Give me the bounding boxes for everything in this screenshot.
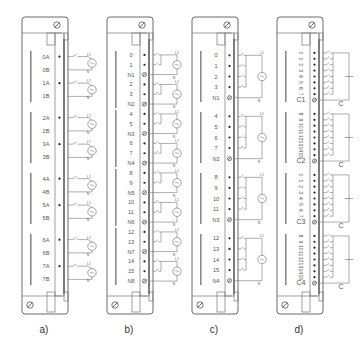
wire xyxy=(246,238,262,255)
switch-icon xyxy=(238,146,246,148)
terminal-screw xyxy=(58,82,60,84)
switch-icon xyxy=(323,196,333,198)
screw-icon xyxy=(143,220,147,224)
common-terminal-label: C4 xyxy=(297,279,306,286)
switch-icon xyxy=(238,236,246,238)
screw-icon xyxy=(143,102,147,106)
terminal-label: 0 xyxy=(298,52,304,55)
switch-blade xyxy=(327,251,330,253)
terminal-screw xyxy=(313,81,315,83)
switch-blade xyxy=(156,122,158,124)
line-label: L1 xyxy=(175,169,179,173)
terminal-label: 8 xyxy=(214,174,217,180)
top-latch xyxy=(217,33,225,45)
switch-blade xyxy=(156,112,158,114)
terminal-screw xyxy=(143,201,145,203)
group-indicator-bar xyxy=(200,234,202,285)
neutral-label: N xyxy=(87,96,90,100)
switch-icon xyxy=(238,125,246,127)
switch-icon xyxy=(153,92,161,94)
terminal-label: 7 xyxy=(129,150,132,156)
terminal-label: 3A xyxy=(43,141,50,147)
terminal-label: 12 xyxy=(213,235,219,241)
neutral-label: N xyxy=(173,253,176,257)
switch-blade xyxy=(241,186,243,188)
line-label: L1 xyxy=(87,262,91,266)
terminal-label: 15 xyxy=(213,267,219,273)
terminal-label: 8 xyxy=(129,170,132,176)
switch-icon xyxy=(323,179,333,181)
wire xyxy=(161,202,177,208)
module-panel-a: 0A0B1A1BL1NL1N2A2B3A3BL1NL1N4A4B5A5BL1NL… xyxy=(22,17,96,335)
switch-blade xyxy=(241,135,243,137)
terminal-label: 9 xyxy=(298,118,304,121)
terminal-label: 0A xyxy=(43,54,50,60)
common-terminal-label: N8 xyxy=(127,278,134,284)
line-label: L1 xyxy=(87,201,91,205)
screw-icon xyxy=(27,302,33,308)
terminal-screw xyxy=(143,54,145,56)
switch-icon xyxy=(323,202,333,204)
ac-source-icon xyxy=(173,267,181,275)
terminal-screw xyxy=(228,115,230,117)
switch-icon xyxy=(323,173,333,175)
wire xyxy=(82,205,92,208)
common-terminal-label: N6 xyxy=(127,219,134,225)
ac-source-icon xyxy=(88,120,96,128)
switch-blade xyxy=(241,175,243,177)
terminal-screw xyxy=(143,211,145,213)
terminal-screw xyxy=(143,231,145,233)
terminal-strip xyxy=(55,33,64,296)
terminal-label: 6 xyxy=(129,140,132,146)
wire xyxy=(82,144,92,147)
wire xyxy=(82,83,92,86)
terminal-label: 0 xyxy=(129,52,132,58)
switch-icon xyxy=(68,81,82,83)
neutral-label: N xyxy=(87,70,90,74)
terminal-label: 5 xyxy=(298,203,304,206)
switch-blade xyxy=(73,54,77,56)
screw-icon xyxy=(143,161,147,165)
ac-source-icon xyxy=(173,61,181,69)
switch-icon xyxy=(238,247,246,249)
switch-blade xyxy=(327,240,330,242)
switch-icon xyxy=(323,190,333,192)
switch-blade xyxy=(73,237,77,239)
group-indicator-bar xyxy=(115,169,117,226)
terminal-group: 45N3L1N xyxy=(115,110,181,167)
terminal-group: 0A0B1A1BL1NL1N xyxy=(30,51,96,102)
ac-source-icon xyxy=(88,269,96,277)
terminal-label: 1 xyxy=(298,179,304,182)
common-terminal-label: N1 xyxy=(127,72,134,78)
terminal-screw xyxy=(313,215,315,217)
switch-icon xyxy=(323,185,333,187)
switch-blade xyxy=(327,80,330,82)
switch-blade xyxy=(73,176,77,178)
terminal-screw xyxy=(143,152,145,154)
panel-caption: c) xyxy=(210,324,218,335)
switch-icon xyxy=(238,114,246,116)
line-label: L1 xyxy=(175,110,179,114)
terminal-screw xyxy=(143,83,145,85)
terminal-label: 10 xyxy=(213,196,219,202)
terminal-label: 5 xyxy=(214,124,217,130)
switch-blade xyxy=(327,63,330,65)
terminal-label: 4A xyxy=(43,176,50,182)
terminal-label: 9 xyxy=(129,180,132,186)
panel-caption: b) xyxy=(125,324,134,335)
common-terminal-label: N4 xyxy=(212,278,219,284)
switch-icon xyxy=(323,118,333,120)
terminal-group: 4A4B5A5BL1NL1N xyxy=(30,173,96,224)
terminal-label: 6B xyxy=(43,250,50,256)
terminal-screw xyxy=(228,54,230,56)
wire xyxy=(333,175,349,195)
dc-source-icon xyxy=(345,195,353,203)
switch-icon xyxy=(153,240,161,242)
screw-icon xyxy=(54,22,60,28)
switch-icon xyxy=(323,135,333,137)
bottom-tab xyxy=(234,292,238,301)
wire xyxy=(82,179,92,182)
terminal-screw xyxy=(313,87,315,89)
common-terminal-label: N4 xyxy=(127,160,134,166)
switch-icon xyxy=(68,142,82,144)
